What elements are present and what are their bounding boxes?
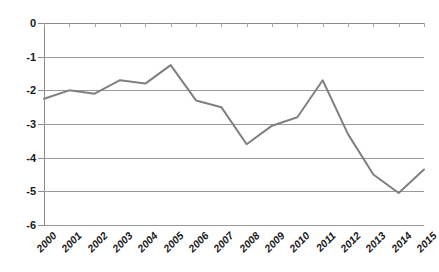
series-polyline <box>44 65 424 193</box>
